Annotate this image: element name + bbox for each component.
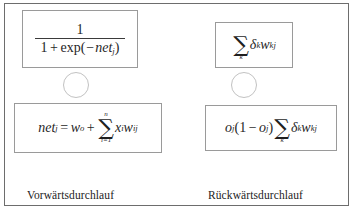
backward-pass-caption: Rückwärtsdurchlauf xyxy=(208,189,303,201)
backward-neuron-circle-icon xyxy=(231,72,257,98)
weight-variable-w: w xyxy=(301,121,310,135)
figure-container: 1 1+exp(−netj) netj = wo + n ∑ i=1 xiwij… xyxy=(0,0,355,214)
exp-function-name: exp xyxy=(60,40,80,55)
sigmoid-expression: 1 1+exp(−netj) xyxy=(35,23,126,55)
sigmoid-fraction: 1 1+exp(−netj) xyxy=(35,23,126,55)
summation-symbol-group: n ∑ i=1 xyxy=(98,111,114,146)
net-lhs-variable: net xyxy=(38,121,55,135)
bias-weight-variable: w xyxy=(71,121,80,135)
error-summation-lower-limit: k xyxy=(280,137,283,145)
weight-variable-w: w xyxy=(124,121,133,135)
plus-operator: + xyxy=(84,121,97,135)
minus-operator: − xyxy=(246,121,259,135)
delta-summation-lower-limit: k xyxy=(239,54,242,62)
net-variable: net xyxy=(95,40,112,55)
summation-lower-limit: i=1 xyxy=(101,137,111,145)
close-paren: ) xyxy=(269,121,274,135)
sigma-icon: ∑ xyxy=(98,119,114,138)
backward-delta-sum-formula-box: n ∑ k δkwkj xyxy=(215,22,293,68)
net-input-expression: netj = wo + n ∑ i=1 xiwij xyxy=(38,111,138,146)
denominator-one: 1 xyxy=(41,40,48,55)
sigmoid-denominator: 1+exp(−netj) xyxy=(35,39,126,55)
error-signal-expression: oj(1−oj) n ∑ k δkwkj xyxy=(225,111,317,146)
forward-net-input-formula-box: netj = wo + n ∑ i=1 xiwij xyxy=(14,103,162,153)
weight-variable-w: w xyxy=(260,38,269,52)
sigmoid-numerator: 1 xyxy=(71,23,90,38)
delta-sum-expression: n ∑ k δkwkj xyxy=(232,28,276,63)
minus-sign: − xyxy=(85,40,95,55)
forward-neuron-circle-icon xyxy=(63,72,89,98)
sigma-icon: ∑ xyxy=(274,119,290,138)
denominator-plus-operator: + xyxy=(48,40,61,55)
equals-sign: = xyxy=(58,121,71,135)
numeral-one: 1 xyxy=(239,121,246,135)
error-summation-symbol-group: n ∑ k xyxy=(274,111,290,146)
forward-pass-caption: Vorwärtsdurchlauf xyxy=(27,189,114,201)
sigma-icon: ∑ xyxy=(233,36,249,55)
delta-summation-symbol-group: n ∑ k xyxy=(233,28,249,63)
backward-error-signal-formula-box: oj(1−oj) n ∑ k δkwkj xyxy=(205,105,337,151)
forward-activation-formula-box: 1 1+exp(−netj) xyxy=(22,10,138,68)
close-paren: ) xyxy=(115,40,120,55)
